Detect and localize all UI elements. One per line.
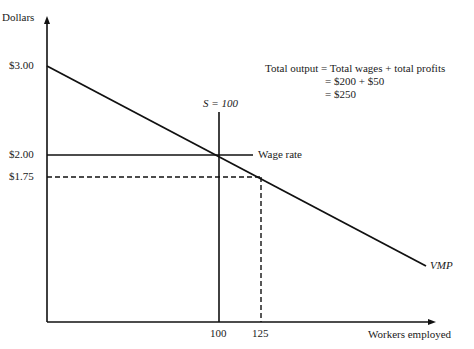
supply-label: S = 100 [203, 97, 238, 109]
vmp-line [47, 66, 426, 266]
y-tick-200: $2.00 [9, 148, 34, 160]
wage-rate-label: Wage rate [258, 148, 302, 160]
chart-canvas [0, 0, 474, 349]
x-axis-arrow-icon [428, 319, 436, 325]
equation-line-1: Total output = Total wages + total profi… [265, 62, 445, 74]
equation-line-3: = $250 [325, 88, 356, 100]
y-axis-label: Dollars [2, 11, 34, 23]
equation-line-2: = $200 + $50 [325, 75, 384, 87]
x-tick-125: 125 [252, 327, 269, 339]
vmp-label: VMP [430, 259, 453, 271]
y-axis-arrow-icon [44, 16, 50, 24]
y-tick-175: $1.75 [9, 170, 34, 182]
x-axis-label: Workers employed [368, 328, 451, 340]
x-tick-100: 100 [210, 327, 227, 339]
y-tick-300: $3.00 [9, 59, 34, 71]
